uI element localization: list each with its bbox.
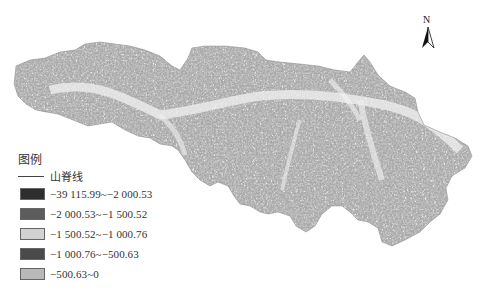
legend-ridge-line: 山脊线 (18, 168, 83, 184)
legend-swatch (20, 188, 45, 200)
north-label: N (423, 14, 430, 25)
legend-label: −1 500.52~−1 000.76 (50, 228, 147, 240)
legend-item-5: −500.63~0 (20, 268, 99, 280)
ridge-line-label: 山脊线 (50, 168, 83, 184)
legend-title: 图例 (18, 150, 42, 168)
legend-item-2: −2 000.53~−1 500.52 (20, 208, 147, 220)
legend-item-3: −1 500.52~−1 000.76 (20, 228, 147, 240)
legend-swatch (20, 248, 45, 260)
ridge-line-icon (18, 176, 44, 177)
legend-item-1: −39 115.99~−2 000.53 (20, 188, 152, 200)
legend-swatch (20, 268, 45, 280)
legend-label: −39 115.99~−2 000.53 (50, 188, 152, 200)
legend-label: −2 000.53~−1 500.52 (50, 208, 147, 220)
north-arrow-icon (420, 26, 436, 50)
legend-label: −1 000.76~−500.63 (50, 248, 139, 260)
legend-swatch (20, 228, 45, 240)
north-arrow: N (420, 14, 436, 48)
legend-item-4: −1 000.76~−500.63 (20, 248, 139, 260)
legend-swatch (20, 208, 45, 220)
legend-label: −500.63~0 (50, 268, 99, 280)
